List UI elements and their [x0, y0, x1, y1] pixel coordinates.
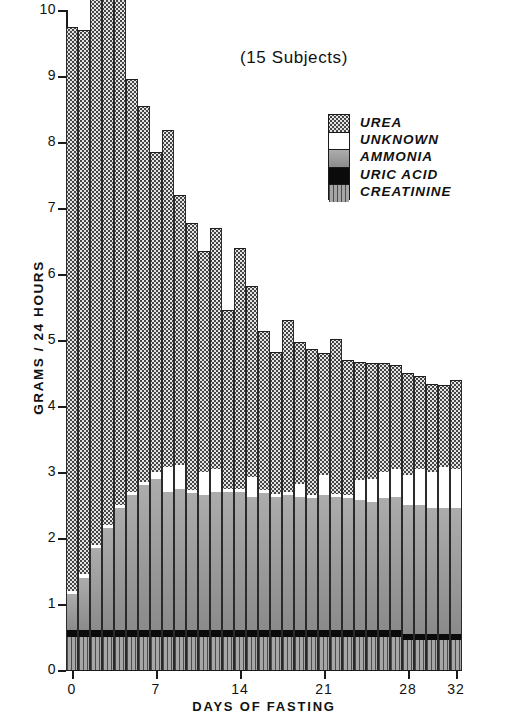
bar-stack — [66, 10, 78, 670]
legend-label-ammonia: AMMONIA — [360, 149, 433, 164]
bar-segment-uric-acid — [246, 630, 258, 637]
bar-segment-unknown — [402, 475, 414, 505]
bar-segment-uric-acid — [402, 634, 414, 641]
bar-stack — [90, 10, 102, 670]
bar-segment-uric-acid — [90, 630, 102, 637]
bar-segment-urea — [198, 251, 210, 472]
bar-segment-ammonia — [138, 485, 150, 630]
x-tick — [72, 670, 74, 679]
bar-segment-uric-acid — [390, 630, 402, 637]
bar-segment-unknown — [78, 574, 90, 577]
bar-segment-creatinine — [186, 637, 198, 670]
bar-segment-urea — [174, 195, 186, 466]
bar-segment-ammonia — [438, 508, 450, 633]
bar-segment-ammonia — [270, 497, 282, 630]
bar-segment-urea — [354, 362, 366, 479]
y-tick-label: 7 — [16, 199, 56, 215]
bar-segment-ammonia — [90, 548, 102, 631]
bar-stack — [126, 10, 138, 670]
bar-segment-creatinine — [210, 637, 222, 670]
bar-segment-ammonia — [174, 489, 186, 631]
bar-stack — [306, 10, 318, 670]
bar-stack — [438, 10, 450, 670]
y-tick — [58, 670, 66, 672]
x-tick-label: 14 — [220, 681, 260, 697]
bar-segment-creatinine — [390, 637, 402, 670]
bar-segment-uric-acid — [414, 634, 426, 641]
legend-swatch-uric-acid — [329, 167, 349, 185]
bar-segment-uric-acid — [378, 630, 390, 637]
y-tick — [58, 10, 66, 12]
x-tick-label: 28 — [388, 681, 428, 697]
bar-segment-creatinine — [318, 637, 330, 670]
y-tick-label: 0 — [16, 661, 56, 677]
bar-stack — [378, 10, 390, 670]
bar-segment-creatinine — [66, 637, 78, 670]
bar-stack — [150, 10, 162, 670]
bar-stack — [282, 10, 294, 670]
bar-segment-uric-acid — [150, 630, 162, 637]
bar-segment-uric-acid — [78, 630, 90, 637]
y-tick-label: 6 — [16, 265, 56, 281]
y-tick-label: 9 — [16, 67, 56, 83]
bar-segment-urea — [210, 228, 222, 469]
bar-stack — [222, 10, 234, 670]
bar-segment-ammonia — [318, 495, 330, 630]
bar-segment-creatinine — [366, 637, 378, 670]
bar-stack — [102, 10, 114, 670]
legend-label-uric-acid: URIC ACID — [360, 167, 438, 182]
y-tick-label: 3 — [16, 463, 56, 479]
legend-swatch-creatinine — [329, 184, 349, 202]
bar-segment-ammonia — [186, 493, 198, 630]
bar-segment-ammonia — [234, 492, 246, 631]
bar-segment-urea — [414, 376, 426, 468]
bar-segment-urea — [138, 106, 150, 482]
bar-segment-unknown — [270, 494, 282, 497]
bar-segment-urea — [78, 30, 90, 575]
bar-segment-unknown — [162, 467, 174, 492]
bar-segment-uric-acid — [198, 630, 210, 637]
bar-segment-uric-acid — [438, 634, 450, 641]
bar-segment-ammonia — [450, 508, 462, 633]
bar-segment-ammonia — [402, 505, 414, 634]
bar-segment-unknown — [150, 472, 162, 479]
bar-segment-unknown — [210, 469, 222, 492]
y-tick-label: 8 — [16, 133, 56, 149]
bar-segment-ammonia — [102, 528, 114, 630]
bar-segment-urea — [378, 363, 390, 472]
bar-segment-unknown — [318, 475, 330, 495]
bar-segment-unknown — [186, 490, 198, 493]
bar-segment-urea — [306, 349, 318, 496]
bar-stack — [450, 10, 462, 670]
bar-stack — [138, 10, 150, 670]
bar-segment-uric-acid — [294, 630, 306, 637]
bar-segment-unknown — [306, 495, 318, 498]
chart-canvas: (15 Subjects) GRAMS / 24 HOURS DAYS OF F… — [0, 0, 522, 722]
bar-segment-urea — [342, 360, 354, 495]
bar-stack — [234, 10, 246, 670]
bar-segment-urea — [402, 373, 414, 475]
bar-segment-urea — [294, 342, 306, 484]
bar-segment-ammonia — [210, 492, 222, 631]
bar-segment-creatinine — [222, 637, 234, 670]
bar-segment-creatinine — [414, 640, 426, 670]
bar-segment-unknown — [198, 472, 210, 495]
bar-segment-ammonia — [426, 508, 438, 633]
bar-stack — [162, 10, 174, 670]
bar-segment-uric-acid — [330, 630, 342, 637]
bar-segment-unknown — [174, 465, 186, 488]
bar-segment-ammonia — [114, 508, 126, 630]
bar-segment-ammonia — [366, 502, 378, 631]
bar-stack — [186, 10, 198, 670]
y-tick-label: 2 — [16, 529, 56, 545]
bar-segment-uric-acid — [114, 630, 126, 637]
bar-segment-urea — [258, 331, 270, 489]
bar-segment-unknown — [390, 469, 402, 497]
x-tick-label: 21 — [304, 681, 344, 697]
bar-segment-creatinine — [270, 637, 282, 670]
bar-segment-urea — [282, 320, 294, 492]
bar-stack — [78, 10, 90, 670]
bar-segment-uric-acid — [270, 630, 282, 637]
y-tick-label: 4 — [16, 397, 56, 413]
bar-stack — [426, 10, 438, 670]
